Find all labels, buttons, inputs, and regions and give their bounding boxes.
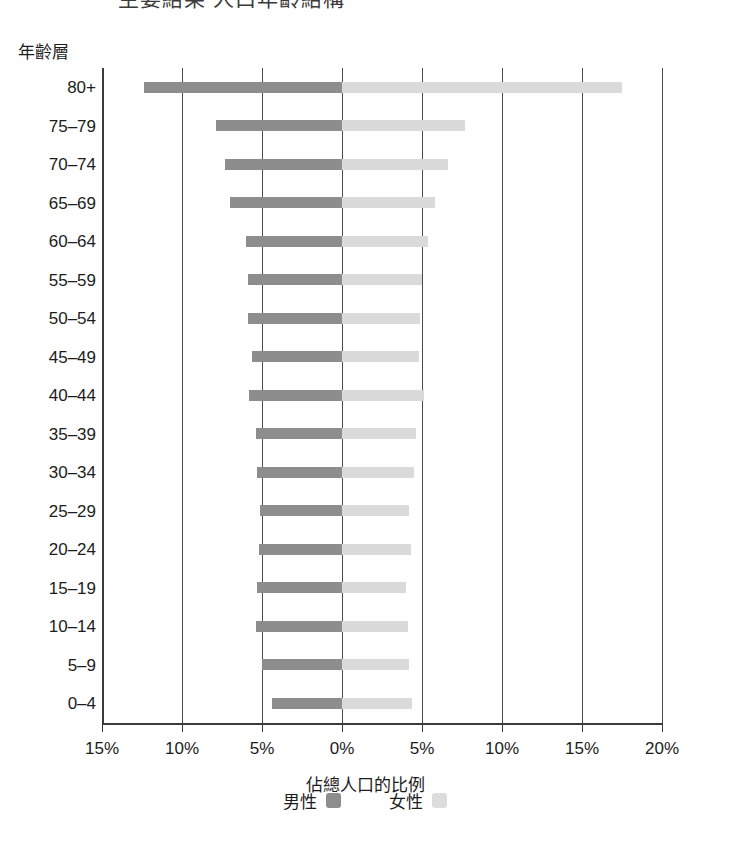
y-tick-label: 80+ xyxy=(0,79,96,96)
x-tick-label: 10% xyxy=(142,739,222,759)
y-tick-label: 55–59 xyxy=(0,272,96,289)
y-axis-line xyxy=(102,68,104,725)
x-tick-label: 0% xyxy=(302,739,382,759)
bar-female xyxy=(342,428,416,439)
bar-male xyxy=(144,82,342,93)
bar-female xyxy=(342,698,412,709)
bar-male xyxy=(257,582,342,593)
clipped-heading-text: 主要結果 人口年齡結構 xyxy=(118,0,345,12)
bar-male xyxy=(272,698,342,709)
bar-male xyxy=(230,197,342,208)
x-tick-label: 15% xyxy=(62,739,142,759)
x-tick-label: 15% xyxy=(542,739,622,759)
bar-female xyxy=(342,197,435,208)
clipped-heading: 主要結果 人口年齡結構 xyxy=(0,0,730,18)
legend-swatch-female-icon xyxy=(432,793,447,808)
y-tick-label: 65–69 xyxy=(0,195,96,212)
gridline xyxy=(662,68,663,723)
bar-female xyxy=(342,82,622,93)
legend-item-male[interactable]: 男性 xyxy=(283,788,341,813)
y-tick-label: 50–54 xyxy=(0,310,96,327)
bar-female xyxy=(342,274,422,285)
x-tick-label: 20% xyxy=(622,739,702,759)
legend-swatch-male-icon xyxy=(326,793,341,808)
bar-male xyxy=(249,390,342,401)
bar-male xyxy=(252,351,342,362)
bar-male xyxy=(216,120,342,131)
y-tick-label: 20–24 xyxy=(0,541,96,558)
bar-female xyxy=(342,120,465,131)
chart-legend: 男性 女性 xyxy=(0,788,730,813)
y-tick-label: 70–74 xyxy=(0,156,96,173)
bar-male xyxy=(257,467,342,478)
y-tick-label: 75–79 xyxy=(0,118,96,135)
y-axis-title: 年齡層 xyxy=(18,38,69,63)
bar-female xyxy=(342,159,448,170)
bar-male xyxy=(225,159,342,170)
y-tick-label: 30–34 xyxy=(0,464,96,481)
bar-male xyxy=(248,313,342,324)
gridline xyxy=(182,68,183,723)
bar-male xyxy=(246,236,342,247)
bar-female xyxy=(342,390,424,401)
gridline xyxy=(582,68,583,723)
legend-item-female[interactable]: 女性 xyxy=(389,788,447,813)
bar-female xyxy=(342,505,409,516)
legend-label-female: 女性 xyxy=(389,788,423,813)
y-tick-label: 10–14 xyxy=(0,618,96,635)
bar-male xyxy=(256,428,342,439)
bar-female xyxy=(342,236,428,247)
bar-female xyxy=(342,467,414,478)
x-axis-line xyxy=(102,723,662,725)
legend-label-male: 男性 xyxy=(283,788,317,813)
bar-male xyxy=(262,659,342,670)
gridline xyxy=(502,68,503,723)
bar-female xyxy=(342,351,419,362)
x-tickmark xyxy=(662,723,663,732)
population-pyramid-chart: 主要結果 人口年齡結構 15%10%5%0%5%10%15%20%年齡層佔總人口… xyxy=(0,0,730,844)
bar-female xyxy=(342,582,406,593)
bar-female xyxy=(342,313,420,324)
x-tick-label: 5% xyxy=(382,739,462,759)
y-tick-label: 45–49 xyxy=(0,349,96,366)
y-tick-label: 60–64 xyxy=(0,233,96,250)
bar-male xyxy=(248,274,342,285)
x-tick-label: 10% xyxy=(462,739,542,759)
x-tick-label: 5% xyxy=(222,739,302,759)
y-tick-label: 40–44 xyxy=(0,387,96,404)
y-tick-label: 25–29 xyxy=(0,503,96,520)
y-tick-label: 0–4 xyxy=(0,695,96,712)
bar-female xyxy=(342,544,411,555)
y-tick-label: 15–19 xyxy=(0,580,96,597)
bar-male xyxy=(259,544,342,555)
bar-female xyxy=(342,621,408,632)
bar-female xyxy=(342,659,409,670)
y-tick-label: 5–9 xyxy=(0,657,96,674)
bar-male xyxy=(260,505,342,516)
bar-male xyxy=(256,621,342,632)
y-tick-label: 35–39 xyxy=(0,426,96,443)
